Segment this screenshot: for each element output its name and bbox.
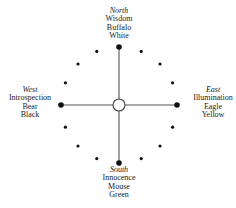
ring-dot: [140, 157, 143, 160]
south-label: South Innocence Mouse Green: [103, 166, 136, 200]
medicine-wheel-diagram: North Wisdom Buffalo White East Illumina…: [0, 0, 236, 208]
east-dot: [174, 102, 180, 108]
ring-dot: [76, 62, 79, 65]
ring-dot: [95, 50, 98, 53]
west-label: West Introspection Bear Black: [9, 86, 51, 120]
ring-dot: [171, 126, 174, 129]
ring-dot: [158, 144, 161, 147]
north-label: North Wisdom Buffalo White: [106, 7, 133, 41]
center-circle: [113, 99, 125, 111]
west-color: Black: [9, 111, 51, 119]
ring-dot: [64, 126, 67, 129]
north-dot: [116, 44, 122, 50]
ring-dot: [95, 157, 98, 160]
east-color: Yellow: [193, 111, 233, 119]
ring-dot: [64, 81, 67, 84]
ring-dot: [140, 50, 143, 53]
east-label: East Illumination Eagle Yellow: [193, 86, 233, 120]
ring-dot: [171, 81, 174, 84]
south-color: Green: [103, 191, 136, 199]
north-color: White: [106, 32, 133, 40]
ring-dot: [158, 62, 161, 65]
ring-dot: [76, 144, 79, 147]
west-dot: [58, 102, 64, 108]
